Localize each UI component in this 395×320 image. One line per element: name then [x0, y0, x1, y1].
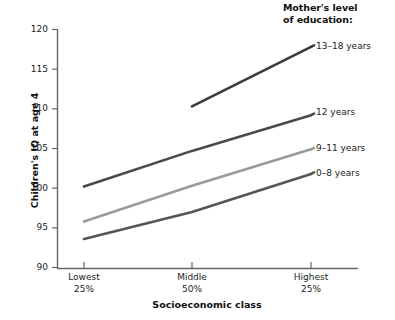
- x-tick-label-middle-line2: 50%: [150, 284, 234, 296]
- series-label-13-18-years: 13–18 years: [316, 41, 371, 51]
- x-axis-title: Socioeconomic class: [57, 299, 357, 310]
- series-line-13-18-years: [192, 47, 311, 106]
- x-tick-label-lowest-line1: Lowest: [68, 272, 99, 282]
- x-tick-label-middle-line1: Middle: [177, 272, 207, 282]
- x-tick-label-highest-line1: Highest: [294, 272, 328, 282]
- x-tick-label-lowest: Lowest 25%: [42, 272, 126, 295]
- y-tick-label-90: 90: [22, 262, 48, 272]
- y-tick-label-120: 120: [22, 24, 48, 34]
- x-tick-label-lowest-line2: 25%: [42, 284, 126, 296]
- x-tick-marks: [84, 262, 311, 268]
- y-axis-title: Children's IQ at age 4: [29, 46, 40, 256]
- series-label-9-11-years: 9–11 years: [316, 143, 365, 153]
- x-tick-label-highest: Highest 25%: [269, 272, 353, 295]
- x-tick-label-middle: Middle 50%: [150, 272, 234, 295]
- y-tick-marks: [52, 30, 58, 268]
- series-label-12-years: 12 years: [316, 107, 355, 117]
- x-tick-label-highest-line2: 25%: [269, 284, 353, 296]
- iq-socioeconomic-line-chart: Mother's level of education: 120 115 110: [0, 0, 395, 320]
- series-label-0-8-years: 0–8 years: [316, 168, 360, 178]
- series-line-12-years: [84, 115, 311, 186]
